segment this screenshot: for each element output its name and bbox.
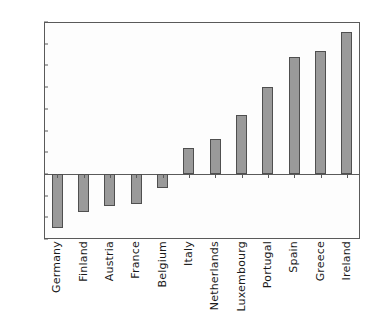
x-axis-tick-mark [321,174,322,178]
x-axis-tick-mark [268,174,269,178]
x-axis-tick-mark [347,174,348,178]
x-axis-category-label: Belgium [157,241,168,288]
x-axis-category-label: Ireland [341,241,352,280]
x-axis-category-label: Netherlands [209,241,220,310]
x-axis-tick-mark [163,174,164,178]
x-axis-tick-mark [215,174,216,178]
bar [262,87,273,174]
x-axis-category-label: Greece [315,241,326,281]
x-axis-category-label: Italy [183,241,194,266]
x-axis-tick-mark [57,174,58,178]
bar [341,32,352,174]
x-axis-category-label: France [130,241,141,279]
x-axis-category-label: Finland [78,241,89,282]
bar [183,148,194,174]
bar [236,115,247,174]
bar [131,174,142,204]
bar [210,139,221,174]
bars-layer [44,22,360,239]
x-axis-labels: GermanyFinlandAustriaFranceBelgiumItalyN… [44,241,360,316]
x-axis-tick-mark [110,174,111,178]
x-axis-category-label: Luxembourg [236,241,247,312]
x-axis-tick-mark [84,174,85,178]
x-axis-category-label: Spain [288,241,299,273]
x-axis-tick-mark [136,174,137,178]
bar [78,174,89,212]
x-axis-tick-mark [242,174,243,178]
y-axis: -6-4-202468101214 [0,0,44,262]
x-axis-category-label: Austria [104,241,115,281]
x-axis-category-label: Portugal [262,241,273,288]
x-axis-tick-mark [294,174,295,178]
bar [52,174,63,228]
bar [315,51,326,174]
bar [289,57,300,174]
x-axis-tick-mark [189,174,190,178]
bar [104,174,115,207]
x-axis-category-label: Germany [51,241,62,293]
bar-chart: -6-4-202468101214 GermanyFinlandAustriaF… [0,0,377,316]
